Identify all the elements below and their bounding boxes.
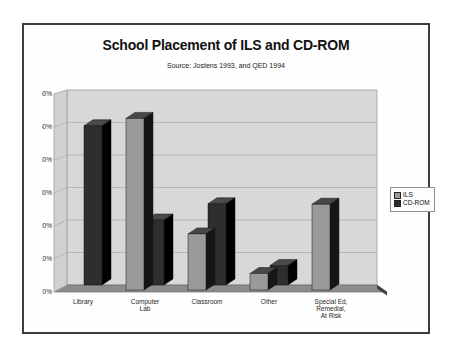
- x-axis-label: Remedial,: [316, 305, 345, 312]
- x-axis-label: Classroom: [191, 298, 222, 305]
- legend-label-ils: ILS: [403, 192, 413, 199]
- bar-ils-special-ed: [312, 204, 330, 290]
- y-axis-label-50: 50%: [42, 123, 52, 130]
- bar-ils-classroom: [188, 234, 206, 290]
- x-axis-label: Lab: [140, 305, 151, 312]
- y-axis-label-0: 0%: [43, 288, 53, 295]
- y-axis-label-60: 60%: [42, 90, 52, 97]
- legend-swatch-cdrom-icon: [394, 200, 401, 207]
- bar-cdrom-computer-lab-side: [164, 214, 173, 285]
- legend-box: ILS CD-ROM: [390, 187, 435, 212]
- y-axis-label-20: 20%: [42, 222, 52, 229]
- x-axis-label: Library: [73, 298, 94, 306]
- bar-ils-other: [250, 274, 268, 291]
- chart-subtitle: Source: Jostens 1993, and QED 1994: [24, 62, 428, 69]
- chart-title: School Placement of ILS and CD-ROM: [24, 37, 428, 53]
- plot-floor: [54, 285, 387, 292]
- bar-ils-computer-lab: [126, 118, 144, 290]
- bar-ils-special-ed-side: [330, 198, 339, 290]
- bar-cdrom-library-side: [102, 120, 111, 285]
- legend-swatch-ils-icon: [394, 192, 401, 199]
- bar-ils-computer-lab-side: [144, 112, 153, 290]
- y-axis-label-40: 40%: [42, 156, 52, 163]
- chart-frame: School Placement of ILS and CD-ROM Sourc…: [22, 23, 430, 334]
- bar-cdrom-classroom-side: [226, 198, 235, 285]
- bar-cdrom-library: [84, 126, 102, 285]
- legend-label-cdrom: CD-ROM: [403, 200, 430, 207]
- plot-side-wall: [54, 90, 67, 292]
- bar-chart-plot: 0%10%20%30%40%50%60%LibraryComputerLabCl…: [42, 82, 392, 332]
- y-axis-label-30: 30%: [42, 189, 52, 196]
- x-axis-label: Other: [261, 298, 278, 305]
- x-axis-label: At Risk: [321, 312, 342, 319]
- bar-ils-classroom-side: [206, 228, 215, 290]
- legend-item-ils: ILS: [394, 192, 430, 199]
- y-axis-label-10: 10%: [42, 255, 52, 262]
- legend-item-cdrom: CD-ROM: [394, 200, 430, 207]
